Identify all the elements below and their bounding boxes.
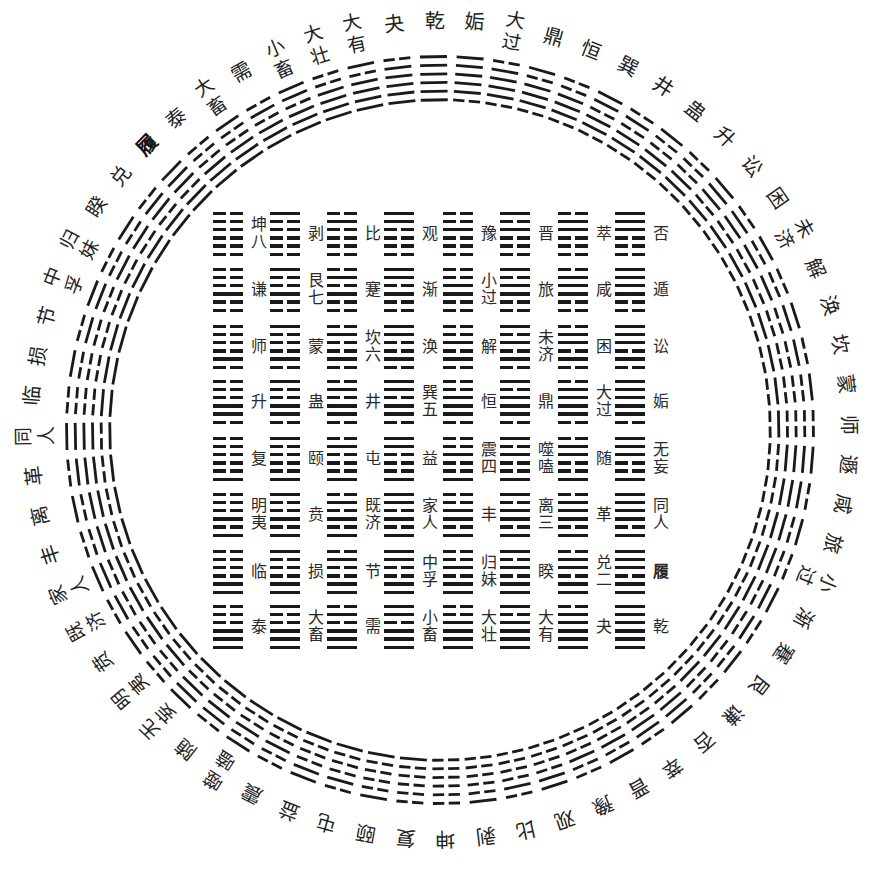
grid-cell: 咸: [558, 268, 614, 312]
yang-line: [615, 637, 645, 640]
yin-line: [500, 349, 530, 352]
yang-line: [270, 591, 300, 594]
grid-label: 艮七: [305, 272, 323, 306]
yin-line: [384, 421, 414, 424]
grid-cell: 贲: [270, 493, 326, 537]
grid-label: 夬: [593, 618, 611, 635]
yang-line: [384, 534, 414, 537]
yang-line: [558, 517, 588, 520]
yin-line: [270, 309, 300, 312]
yang-line: [443, 341, 473, 344]
yin-line: [270, 525, 300, 528]
yin-line: [327, 236, 357, 239]
grid-label: 需: [362, 618, 380, 635]
yin-line: [558, 309, 588, 312]
grid-label: 未济: [535, 329, 553, 363]
yang-line: [384, 292, 414, 295]
yin-line: [558, 212, 588, 215]
yang-line: [615, 276, 645, 279]
yin-line: [500, 236, 530, 239]
yang-line: [327, 276, 357, 279]
yin-line: [443, 253, 473, 256]
yang-line: [615, 566, 645, 569]
grid-label: 大壮: [478, 609, 496, 643]
yin-line: [384, 253, 414, 256]
yang-line: [327, 517, 357, 520]
yin-line: [443, 605, 473, 608]
grid-label: 颐: [305, 450, 323, 467]
yin-line: [213, 613, 243, 616]
grid-cell: 蛊: [270, 380, 326, 424]
grid-label: 蹇: [362, 281, 380, 298]
yin-line: [558, 380, 588, 383]
yang-line: [213, 478, 243, 481]
yang-line: [500, 534, 530, 537]
yin-line: [500, 469, 530, 472]
grid-label: 蛊: [305, 393, 323, 410]
grid-label: 大过: [593, 384, 611, 418]
yang-line: [500, 380, 530, 383]
yin-line: [558, 605, 588, 608]
yin-line: [327, 366, 357, 369]
yang-line: [615, 550, 645, 553]
yang-line: [558, 341, 588, 344]
grid-cell: 泰: [213, 605, 269, 649]
yang-line: [443, 396, 473, 399]
grid-hexagram: [213, 212, 243, 256]
yin-line: [327, 621, 357, 624]
yang-line: [500, 493, 530, 496]
yin-line: [500, 445, 530, 448]
grid-cell: 渐: [384, 268, 440, 312]
yang-line: [270, 629, 300, 632]
yin-line: [213, 566, 243, 569]
yin-line: [500, 525, 530, 528]
grid-cell: 革: [558, 493, 614, 537]
grid-label: 节: [362, 563, 380, 580]
yang-line: [615, 605, 645, 608]
yang-line: [615, 534, 645, 537]
yin-line: [213, 493, 243, 496]
yin-line: [327, 525, 357, 528]
grid-hexagram: [270, 212, 300, 256]
yin-line: [443, 613, 473, 616]
grid-hexagram: [500, 212, 530, 256]
yin-line: [384, 396, 414, 399]
grid-cell: 中孚: [384, 550, 440, 594]
grid-cell: 小畜: [384, 605, 440, 649]
grid-cell: 谦: [213, 268, 269, 312]
grid-cell: 震四: [443, 437, 499, 481]
yin-line: [384, 349, 414, 352]
yang-line: [558, 396, 588, 399]
yin-line: [213, 341, 243, 344]
yang-line: [443, 582, 473, 585]
grid-cell: 小过: [443, 268, 499, 312]
yin-line: [327, 550, 357, 553]
yin-line: [443, 236, 473, 239]
yang-line: [443, 404, 473, 407]
yin-line: [213, 550, 243, 553]
yin-line: [270, 509, 300, 512]
yang-line: [270, 517, 300, 520]
grid-label: 泰: [248, 618, 266, 635]
yang-line: [558, 445, 588, 448]
yang-line: [384, 558, 414, 561]
yang-line: [558, 388, 588, 391]
yang-line: [558, 629, 588, 632]
grid-cell: 乾: [615, 605, 671, 649]
yin-line: [213, 453, 243, 456]
yang-line: [213, 412, 243, 415]
grid-cell: 临: [213, 550, 269, 594]
yin-line: [270, 461, 300, 464]
yang-line: [558, 509, 588, 512]
yin-line: [615, 421, 645, 424]
grid-hexagram: [615, 605, 645, 649]
yin-line: [558, 366, 588, 369]
yang-line: [615, 412, 645, 415]
yang-line: [443, 591, 473, 594]
yang-line: [270, 412, 300, 415]
grid-hexagram: [270, 268, 300, 312]
grid-hexagram: [558, 380, 588, 424]
grid-cell: 鼎: [500, 380, 556, 424]
yang-line: [270, 380, 300, 383]
fuxi-hexagram-diagram: 乾姤大过鼎恒巽井蛊升讼困未济解涣坎蒙师遯咸旅小过渐蹇艮谦否萃晋豫观比剥坤复颐屯益…: [0, 0, 871, 889]
